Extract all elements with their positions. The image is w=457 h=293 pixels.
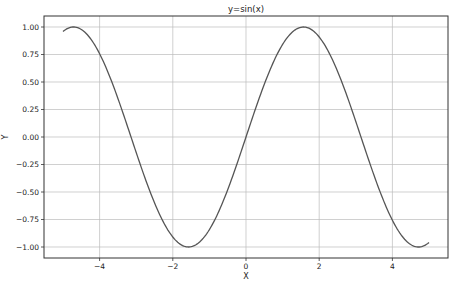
- y-tick-label: 0.00: [22, 133, 39, 142]
- x-tick-label: −2: [167, 262, 178, 271]
- x-axis-ticks: −4−2024: [94, 258, 395, 271]
- y-tick-label: 1.00: [22, 23, 39, 32]
- y-axis-label: Y: [1, 134, 10, 140]
- y-tick-label: −0.75: [16, 215, 39, 224]
- chart-title: y=sin(x): [228, 4, 264, 14]
- y-tick-label: −0.25: [16, 160, 39, 169]
- x-tick-label: 0: [244, 262, 249, 271]
- y-tick-label: −1.00: [16, 243, 39, 252]
- y-tick-label: −0.50: [16, 188, 39, 197]
- x-tick-label: 4: [390, 262, 395, 271]
- y-axis-ticks: 1.000.750.500.250.00−0.25−0.50−0.75−1.00: [16, 23, 44, 252]
- y-tick-label: 0.25: [22, 105, 39, 114]
- x-tick-label: 2: [317, 262, 322, 271]
- y-tick-label: 0.50: [22, 78, 39, 87]
- chart: y=sin(x) 1.000.750.500.250.00−0.25−0.50−…: [0, 0, 457, 293]
- x-tick-label: −4: [94, 262, 105, 271]
- x-axis-label: X: [243, 272, 249, 281]
- y-tick-label: 0.75: [22, 50, 39, 59]
